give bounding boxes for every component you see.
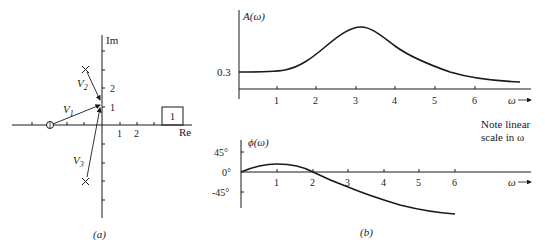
amplitude-curve	[239, 27, 520, 82]
label-v2: V2	[77, 77, 88, 92]
amp-xtick-6: 6	[472, 95, 477, 106]
ph-xtick-1: 1	[274, 177, 279, 188]
label-v1: V1	[63, 103, 74, 118]
figure-canvas: Im Re 1 2 1 2 V1 V2 V3 1 (a)	[0, 0, 545, 250]
amp-xtick-4: 4	[392, 95, 397, 106]
phase-y-tick-45: 45°	[214, 147, 228, 158]
imag-tick-1: 1	[110, 102, 115, 113]
amp-xtick-1: 1	[274, 95, 279, 106]
amplitude-y-label: A(ω)	[242, 10, 265, 23]
ph-xtick-4: 4	[381, 177, 386, 188]
note-line-2: scale in ω	[481, 131, 524, 143]
phase-y-tick-0: 0°	[222, 167, 231, 178]
pole-zero-plot: Im Re 1 2 1 2 V1 V2 V3 1 (a)	[12, 34, 192, 241]
vector-v1	[53, 105, 100, 124]
gain-box-value: 1	[170, 111, 175, 122]
phase-y-label: ϕ(ω)	[248, 136, 269, 149]
amp-xtick-2: 2	[313, 95, 318, 106]
ph-xtick-5: 5	[416, 177, 421, 188]
caption-b: (b)	[360, 226, 373, 239]
pole-upper-icon	[82, 66, 89, 73]
note-line-1: Note linear	[481, 118, 531, 130]
amplitude-y-tick-0.3: 0.3	[217, 66, 231, 78]
amplitude-chart: A(ω) 0.3 1 2 3 4 5 6 ω	[217, 10, 531, 106]
vector-v3	[87, 108, 100, 177]
imag-tick-2: 2	[110, 83, 115, 94]
amp-xtick-3: 3	[353, 95, 358, 106]
phase-y-tick-neg45: -45°	[212, 187, 229, 198]
ph-xtick-6: 6	[452, 177, 457, 188]
pole-lower-icon	[82, 178, 89, 185]
real-tick-1: 1	[117, 128, 122, 139]
amplitude-x-label: ω	[508, 94, 516, 106]
amp-xtick-5: 5	[432, 95, 437, 106]
real-tick-2: 2	[134, 128, 139, 139]
label-v3: V3	[73, 154, 84, 169]
caption-a: (a)	[93, 228, 106, 241]
phase-chart: ϕ(ω) 45° 0° -45° 1 2 3 4 5 6 ω	[212, 136, 531, 214]
imag-axis-label: Im	[106, 34, 119, 46]
phase-x-label: ω	[508, 176, 516, 188]
real-axis-label: Re	[179, 126, 191, 138]
vector-v2	[87, 72, 100, 100]
ph-xtick-2: 2	[310, 177, 315, 188]
